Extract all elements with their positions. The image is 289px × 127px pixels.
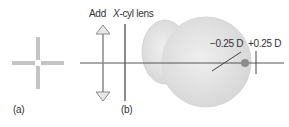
optics-diagram bbox=[0, 0, 289, 127]
minus-power-label: −0.25 D bbox=[210, 39, 243, 49]
xcyl-rest: -cyl lens bbox=[119, 8, 153, 19]
xcyl-lens-label: X-cyl lens bbox=[113, 9, 153, 19]
plus-power-label: +0.25 D bbox=[248, 39, 281, 49]
focal-point-dot bbox=[241, 59, 249, 67]
panel-a-label: (a) bbox=[13, 105, 24, 115]
eye-icon bbox=[142, 17, 251, 107]
panel-b-label: (b) bbox=[121, 105, 132, 115]
cross-target-icon bbox=[12, 37, 64, 89]
add-label: Add bbox=[89, 9, 106, 19]
